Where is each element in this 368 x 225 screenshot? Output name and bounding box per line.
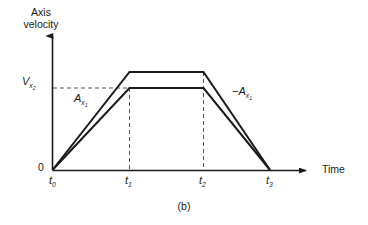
x-axis-tick-label-3: t3 bbox=[266, 174, 273, 188]
tick-subscript: 2 bbox=[202, 181, 206, 188]
velocity-plateau-label: Vx2 bbox=[22, 75, 36, 92]
y-axis-title-line1: Axis bbox=[31, 6, 51, 18]
deceleration-label: −Ax1 bbox=[232, 85, 252, 102]
decel-symbol: −A bbox=[232, 85, 246, 97]
x-axis-title: Time bbox=[322, 163, 345, 175]
velocity-subscript: x2 bbox=[29, 82, 35, 89]
y-axis-title: Axis velocity bbox=[12, 6, 70, 30]
tick-subscript: 1 bbox=[128, 181, 132, 188]
x-axis-tick-label-1: t1 bbox=[125, 174, 132, 188]
origin-label: 0 bbox=[38, 161, 44, 173]
x-axis-tick-label-0: t0 bbox=[49, 174, 56, 188]
decel-subscript: x1 bbox=[246, 92, 252, 99]
y-axis-title-line2: velocity bbox=[23, 18, 58, 30]
velocity-profile-figure: Axis velocity Time 0 Vx2 Ax1 −Ax1 t0t1t2… bbox=[0, 0, 368, 225]
accel-subscript: x1 bbox=[81, 99, 87, 106]
tick-subscript: 0 bbox=[52, 181, 56, 188]
velocity-profile-plot bbox=[0, 0, 368, 225]
figure-caption: (b) bbox=[0, 200, 368, 212]
tick-subscript: 3 bbox=[269, 181, 273, 188]
x-axis-tick-label-2: t2 bbox=[199, 174, 206, 188]
acceleration-label: Ax1 bbox=[74, 92, 88, 109]
